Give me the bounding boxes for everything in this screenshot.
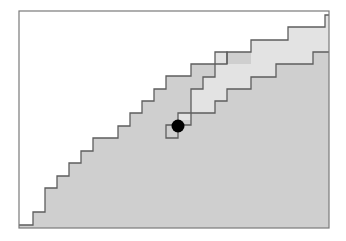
position-marker-dot — [172, 120, 185, 133]
staircase-diagram — [0, 0, 346, 241]
diagram-canvas — [0, 0, 346, 241]
